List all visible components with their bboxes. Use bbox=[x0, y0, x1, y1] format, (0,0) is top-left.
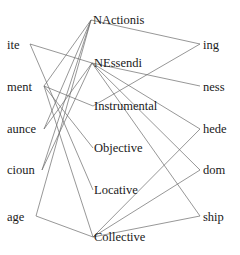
edge-ite-NEssendi bbox=[30, 44, 92, 63]
node-ment: ment bbox=[7, 80, 32, 94]
edge-NEssendi-hede bbox=[92, 63, 200, 129]
node-nessendi: NEssendi bbox=[94, 56, 142, 70]
edge-age-NActionis bbox=[36, 20, 91, 216]
edge-cioun-NActionis bbox=[42, 20, 91, 170]
node-age: age bbox=[7, 210, 24, 224]
node-dom: dom bbox=[203, 163, 225, 177]
node-ing: ing bbox=[203, 38, 219, 52]
node-aunce: aunce bbox=[7, 122, 36, 136]
node-collective: Collective bbox=[94, 230, 145, 244]
node-locative: Locative bbox=[94, 183, 138, 197]
edge-age-Collective bbox=[36, 216, 93, 237]
node-cioun: cioun bbox=[7, 163, 35, 177]
node-nactionis: NActionis bbox=[93, 13, 144, 27]
edges bbox=[30, 20, 200, 237]
node-ite: ite bbox=[7, 38, 20, 52]
node-instrumental: Instrumental bbox=[94, 99, 157, 113]
node-hede: hede bbox=[203, 122, 227, 136]
edge-ite-Locative bbox=[30, 44, 93, 190]
node-ness: ness bbox=[203, 80, 225, 94]
edge-ment-NActionis bbox=[44, 20, 91, 86]
edge-Collective-dom bbox=[93, 170, 200, 237]
node-ship: ship bbox=[203, 210, 224, 224]
node-objective: Objective bbox=[94, 141, 143, 155]
